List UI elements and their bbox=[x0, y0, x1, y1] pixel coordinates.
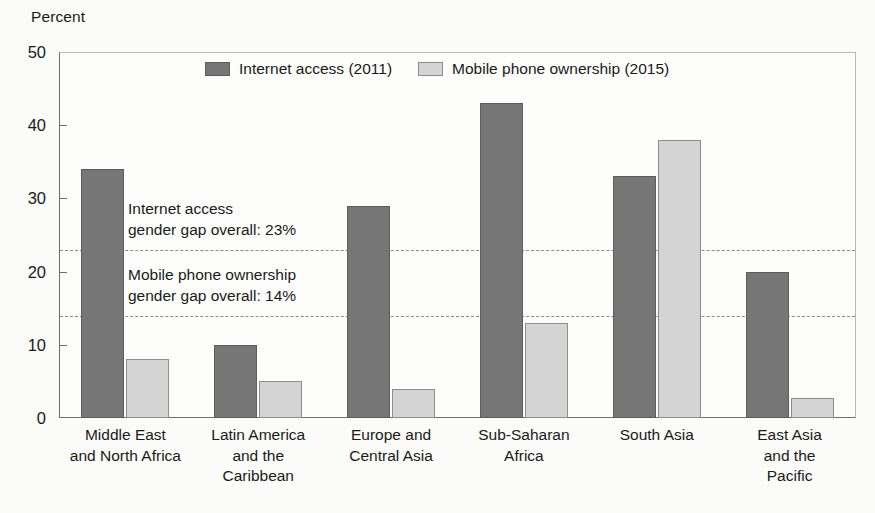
legend-label-mobile-phone-ownership: Mobile phone ownership (2015) bbox=[452, 60, 669, 78]
bar bbox=[392, 389, 435, 418]
y-axis-tick-mark bbox=[59, 345, 67, 346]
x-axis-category-label: East Asiaand thePacific bbox=[723, 425, 856, 487]
bar bbox=[214, 345, 257, 418]
x-axis-category-label: South Asia bbox=[590, 425, 723, 446]
y-axis-title: Percent bbox=[31, 8, 85, 26]
x-axis-category-label: Middle Eastand North Africa bbox=[59, 425, 192, 466]
bar bbox=[658, 140, 701, 418]
x-axis-category-label: Sub-SaharanAfrica bbox=[458, 425, 591, 466]
bar bbox=[81, 169, 124, 418]
legend-swatch-icon-dark bbox=[205, 62, 230, 76]
bar bbox=[746, 272, 789, 418]
y-axis-tick-mark bbox=[59, 125, 67, 126]
x-axis-category-label-line: and the bbox=[723, 446, 856, 467]
legend-item-mobile-phone-ownership[interactable]: Mobile phone ownership (2015) bbox=[418, 60, 669, 78]
bar bbox=[791, 398, 834, 418]
bar bbox=[126, 359, 169, 418]
x-axis-category-label-line: Latin America bbox=[192, 425, 325, 446]
x-axis-category-label-line: Africa bbox=[458, 446, 591, 467]
x-axis-category-label: Latin Americaand theCaribbean bbox=[192, 425, 325, 487]
x-axis-category-label-line: South Asia bbox=[590, 425, 723, 446]
annotation-line-2: gender gap overall: 14% bbox=[128, 285, 296, 306]
legend-swatch-icon-light bbox=[418, 62, 443, 76]
x-axis-category-label-line: Pacific bbox=[723, 466, 856, 487]
bar bbox=[259, 381, 302, 418]
annotation-line-1: Internet access bbox=[128, 198, 296, 219]
y-axis-tick-mark bbox=[59, 198, 67, 199]
bar bbox=[480, 103, 523, 418]
bar bbox=[613, 176, 656, 418]
reference-line bbox=[60, 316, 855, 317]
bar bbox=[525, 323, 568, 418]
y-axis-tick-label: 10 bbox=[0, 335, 46, 354]
x-axis-category-label-line: Middle East bbox=[59, 425, 192, 446]
x-axis-category-label-line: and the bbox=[192, 446, 325, 467]
bar-chart-figure: Percent 01020304050 Middle Eastand North… bbox=[0, 0, 875, 513]
x-axis-category-label: Europe andCentral Asia bbox=[325, 425, 458, 466]
annotation-line-1: Mobile phone ownership bbox=[128, 264, 296, 285]
reference-line-annotation: Mobile phone ownershipgender gap overall… bbox=[128, 264, 296, 306]
y-axis-tick-label: 0 bbox=[0, 409, 46, 428]
reference-line-annotation: Internet accessgender gap overall: 23% bbox=[128, 198, 296, 240]
y-axis-tick-mark bbox=[59, 272, 67, 273]
x-axis-category-label-line: East Asia bbox=[723, 425, 856, 446]
y-axis-tick-label: 30 bbox=[0, 189, 46, 208]
reference-line bbox=[60, 250, 855, 251]
x-axis-category-label-line: Central Asia bbox=[325, 446, 458, 467]
y-axis-tick-label: 20 bbox=[0, 262, 46, 281]
x-axis-category-label-line: Europe and bbox=[325, 425, 458, 446]
x-axis-category-label-line: and North Africa bbox=[59, 446, 192, 467]
y-axis-tick-label: 40 bbox=[0, 116, 46, 135]
legend-item-internet-access[interactable]: Internet access (2011) bbox=[205, 60, 392, 78]
legend-label-internet-access: Internet access (2011) bbox=[239, 60, 392, 78]
bar bbox=[347, 206, 390, 418]
legend: Internet access (2011) Mobile phone owne… bbox=[205, 60, 669, 78]
x-axis-category-label-line: Sub-Saharan bbox=[458, 425, 591, 446]
x-axis-category-label-line: Caribbean bbox=[192, 466, 325, 487]
annotation-line-2: gender gap overall: 23% bbox=[128, 219, 296, 240]
y-axis-tick-label: 50 bbox=[0, 43, 46, 62]
